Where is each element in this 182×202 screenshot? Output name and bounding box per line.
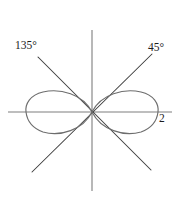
angle-label-135: 135° xyxy=(15,40,37,52)
tangent-line-135deg xyxy=(38,57,151,170)
polar-plot-canvas xyxy=(0,0,182,202)
lemniscate-figure: 135° 45° 2 xyxy=(0,0,182,202)
radius-label-2: 2 xyxy=(159,113,165,125)
angle-label-45: 45° xyxy=(148,42,164,54)
